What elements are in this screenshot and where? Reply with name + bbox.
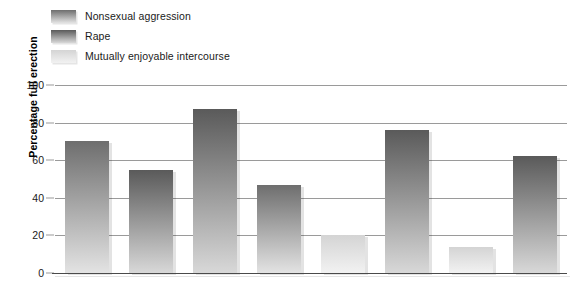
bar[interactable]: [257, 185, 301, 273]
bar[interactable]: [129, 170, 173, 273]
bar[interactable]: [193, 109, 237, 273]
y-axis-tick-labels: 100806040200: [0, 85, 44, 273]
legend-item: Rape: [51, 26, 351, 46]
legend-swatch-mutually-enjoyable-intercourse: [51, 50, 76, 63]
y-axis-tick-label: 80: [4, 117, 44, 129]
y-axis-tick-label: 0: [4, 267, 44, 279]
chart-legend: Nonsexual aggression Rape Mutually enjoy…: [51, 6, 351, 66]
bar[interactable]: [321, 235, 365, 273]
legend-swatch-rape: [51, 30, 76, 43]
x-axis-baseline: [52, 273, 567, 275]
y-axis-tick-label: 60: [4, 154, 44, 166]
y-axis-tick-mark: [46, 122, 54, 123]
y-axis-tick-mark: [46, 160, 54, 161]
legend-item: Nonsexual aggression: [51, 6, 351, 26]
y-axis-tick-mark: [46, 197, 54, 198]
legend-label: Nonsexual aggression: [85, 10, 191, 22]
legend-label: Rape: [85, 30, 111, 42]
x-axis-baseline-shadow: [55, 276, 570, 277]
gridline: [55, 160, 567, 161]
y-axis-tick-mark: [46, 235, 54, 236]
y-axis-tick-label: 40: [4, 192, 44, 204]
chart-plot-area: [55, 85, 567, 273]
bar[interactable]: [449, 247, 493, 273]
y-axis-tick-mark: [46, 85, 54, 86]
y-axis-tick-label: 20: [4, 229, 44, 241]
gridline: [55, 123, 567, 124]
bar[interactable]: [65, 141, 109, 273]
legend-swatch-nonsexual-aggression: [51, 10, 76, 23]
y-axis-tick-label: 100: [4, 79, 44, 91]
bar[interactable]: [513, 156, 557, 273]
legend-item: Mutually enjoyable intercourse: [51, 46, 351, 66]
gridline: [55, 85, 567, 86]
bar[interactable]: [385, 130, 429, 273]
y-axis-tick-marks: [46, 85, 55, 273]
legend-label: Mutually enjoyable intercourse: [85, 50, 230, 62]
